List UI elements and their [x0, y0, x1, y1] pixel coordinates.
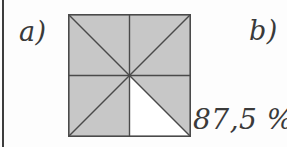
part-label-a: a) — [19, 18, 47, 45]
worksheet-canvas: a) b) 87,5 — [0, 0, 287, 147]
fraction-square-figure — [68, 14, 191, 137]
percent-answer: 87,5 % — [193, 106, 287, 134]
divider-lines — [68, 14, 191, 137]
page-left-rule — [2, 0, 4, 147]
fraction-square-svg — [68, 14, 191, 137]
part-label-b: b) — [249, 17, 278, 44]
